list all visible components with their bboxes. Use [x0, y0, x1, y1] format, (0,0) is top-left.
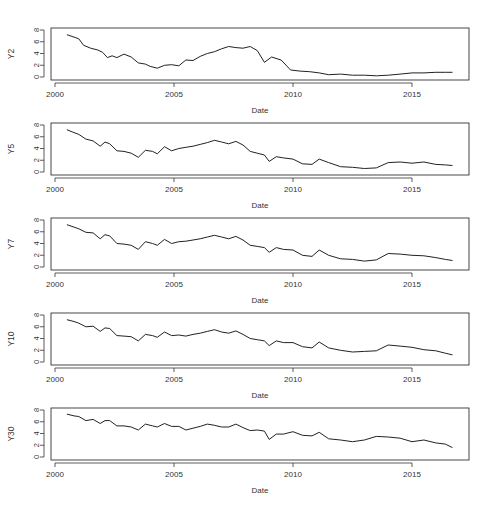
x-axis-label: Date [252, 106, 269, 115]
x-tick-label: 2005 [165, 185, 183, 194]
y-tick-label: 2 [32, 443, 41, 447]
y-tick-label: 6 [32, 420, 41, 424]
y-tick-label: 0 [32, 265, 41, 269]
x-axis: 2000200520102015 [46, 83, 421, 99]
x-tick-label: 2005 [165, 375, 183, 384]
panel-y5: 02468Y52000200520102015Date [6, 123, 469, 210]
y-axis-label: Y30 [6, 426, 16, 441]
x-tick-label: 2005 [165, 280, 183, 289]
x-tick-label: 2010 [284, 90, 302, 99]
y-tick-label: 0 [32, 75, 41, 79]
panel-y30: 02468Y302000200520102015Date [6, 408, 469, 495]
x-axis-label: Date [252, 391, 269, 400]
x-tick-label: 2000 [46, 280, 64, 289]
x-tick-label: 2005 [165, 90, 183, 99]
y-tick-label: 8 [32, 313, 41, 317]
x-tick-label: 2010 [284, 280, 302, 289]
x-tick-label: 2015 [403, 90, 421, 99]
y-tick-label: 2 [32, 348, 41, 352]
series-line [67, 320, 453, 355]
x-axis: 2000200520102015 [46, 463, 421, 479]
x-tick-label: 2010 [284, 375, 302, 384]
y-tick-label: 8 [32, 218, 41, 222]
x-tick-label: 2015 [403, 185, 421, 194]
x-tick-label: 2015 [403, 470, 421, 479]
y-axis-label: Y2 [6, 49, 16, 60]
x-tick-label: 2010 [284, 470, 302, 479]
x-axis-label: Date [252, 296, 269, 305]
series-line [67, 130, 453, 169]
plot-box [51, 28, 469, 80]
y-axis-label: Y10 [6, 331, 16, 346]
y-tick-label: 4 [32, 146, 41, 150]
series-line [67, 414, 453, 448]
y-tick-label: 2 [32, 253, 41, 257]
x-tick-label: 2000 [46, 375, 64, 384]
plot-box [51, 218, 469, 270]
y-tick-label: 0 [32, 455, 41, 459]
y-tick-label: 6 [32, 40, 41, 44]
x-tick-label: 2000 [46, 470, 64, 479]
y-tick-label: 2 [32, 158, 41, 162]
y-axis: 02468 [32, 218, 44, 269]
figure: 02468Y22000200520102015Date02468Y5200020… [0, 0, 488, 508]
x-axis: 2000200520102015 [46, 178, 421, 194]
x-tick-label: 2010 [284, 185, 302, 194]
x-tick-label: 2000 [46, 185, 64, 194]
x-tick-label: 2005 [165, 470, 183, 479]
plot-box [51, 313, 469, 365]
plot-box [51, 123, 469, 175]
y-axis-label: Y7 [6, 239, 16, 250]
y-tick-label: 6 [32, 230, 41, 234]
y-axis: 02468 [32, 313, 44, 364]
y-tick-label: 8 [32, 28, 41, 32]
plot-box [51, 408, 469, 460]
y-tick-label: 0 [32, 170, 41, 174]
y-tick-label: 8 [32, 408, 41, 412]
x-tick-label: 2015 [403, 375, 421, 384]
y-tick-label: 2 [32, 63, 41, 67]
x-axis: 2000200520102015 [46, 368, 421, 384]
y-axis: 02468 [32, 28, 44, 79]
series-line [67, 225, 453, 261]
x-axis-label: Date [252, 486, 269, 495]
y-axis: 02468 [32, 123, 44, 174]
x-tick-label: 2000 [46, 90, 64, 99]
y-tick-label: 4 [32, 431, 41, 435]
y-tick-label: 6 [32, 325, 41, 329]
y-tick-label: 6 [32, 135, 41, 139]
panel-y2: 02468Y22000200520102015Date [6, 28, 469, 115]
series-line [67, 35, 453, 76]
panel-y10: 02468Y102000200520102015Date [6, 313, 469, 400]
panel-y7: 02468Y72000200520102015Date [6, 218, 469, 305]
y-tick-label: 4 [32, 336, 41, 340]
y-tick-label: 4 [32, 51, 41, 55]
x-tick-label: 2015 [403, 280, 421, 289]
x-axis: 2000200520102015 [46, 273, 421, 289]
y-tick-label: 0 [32, 360, 41, 364]
y-tick-label: 8 [32, 123, 41, 127]
y-tick-label: 4 [32, 241, 41, 245]
y-axis-label: Y5 [6, 144, 16, 155]
y-axis: 02468 [32, 408, 44, 459]
x-axis-label: Date [252, 201, 269, 210]
